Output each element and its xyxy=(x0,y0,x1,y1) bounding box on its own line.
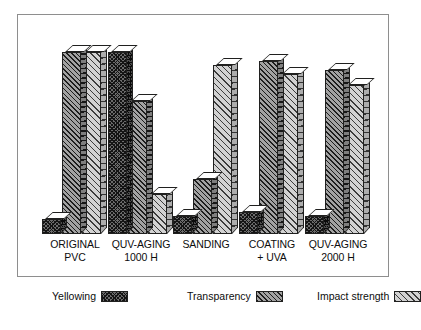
bar-front-face xyxy=(239,212,258,234)
dark-crosshatch-swatch xyxy=(101,291,128,302)
plot-area xyxy=(18,15,388,234)
bar-top-face xyxy=(111,45,138,52)
bar-group xyxy=(239,15,307,234)
bar-group xyxy=(42,15,110,234)
bar-side-face xyxy=(147,94,153,234)
bar-top-face xyxy=(348,78,375,85)
legend-label: Impact strength xyxy=(317,290,389,302)
legend-item-impact_strength[interactable]: Impact strength xyxy=(317,290,421,302)
bar-front-face xyxy=(173,216,192,234)
bar-side-face xyxy=(101,45,107,234)
chart-legend: YellowingTransparencyImpact strength xyxy=(17,290,389,312)
bar-group xyxy=(173,15,241,234)
bar-yellowing xyxy=(239,212,258,234)
x-axis-label: QUV-AGING2000 H xyxy=(293,238,383,264)
medium-hatch-swatch xyxy=(256,291,283,302)
bar-top-face xyxy=(328,63,355,70)
legend-item-transparency[interactable]: Transparency xyxy=(187,290,283,302)
bar-side-face xyxy=(232,58,238,234)
chart-frame: ORIGINALPVCQUV-AGING1000 HSANDINGCOATING… xyxy=(17,14,389,277)
bar-transparency xyxy=(62,52,81,234)
bar-yellowing xyxy=(173,216,192,234)
legend-label: Yellowing xyxy=(52,290,96,302)
x-axis-label-line: 1000 H xyxy=(96,251,186,264)
bar-top-face xyxy=(131,94,158,101)
x-axis-label-line: QUV-AGING xyxy=(293,238,383,251)
bar-side-face xyxy=(298,67,304,234)
bar-yellowing xyxy=(42,219,61,234)
bar-yellowing xyxy=(108,52,127,234)
bar-side-face xyxy=(278,54,284,234)
bar-side-face xyxy=(81,45,87,234)
bar-front-face xyxy=(108,52,127,234)
legend-item-yellowing[interactable]: Yellowing xyxy=(52,290,128,302)
x-axis-labels: ORIGINALPVCQUV-AGING1000 HSANDINGCOATING… xyxy=(18,238,388,276)
legend-label: Transparency xyxy=(187,290,251,302)
bar-front-face xyxy=(62,52,81,234)
bar-side-face xyxy=(364,78,370,234)
bar-group xyxy=(108,15,176,234)
bar-yellowing xyxy=(305,216,324,234)
bar-side-face xyxy=(127,45,133,234)
bar-front-face xyxy=(42,219,61,234)
bar-side-face xyxy=(212,172,218,234)
x-axis-label-line: 2000 H xyxy=(293,251,383,264)
bar-top-face xyxy=(262,54,289,61)
bar-front-face xyxy=(305,216,324,234)
light-hatch-swatch xyxy=(394,291,421,302)
bar-side-face xyxy=(344,63,350,234)
bar-group xyxy=(305,15,373,234)
